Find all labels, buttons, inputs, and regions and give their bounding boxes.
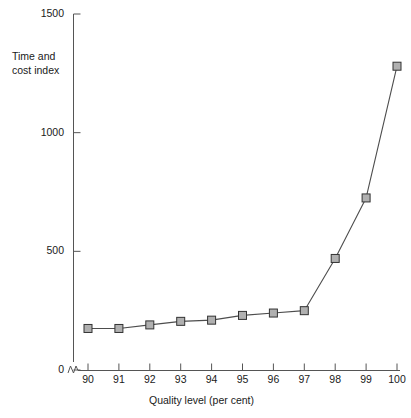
x-tick-label: 98 [320, 373, 350, 385]
x-tick-label: 100 [382, 373, 411, 385]
x-tick-label: 92 [135, 373, 165, 385]
data-markers [84, 62, 401, 332]
x-tick-label: 95 [228, 373, 258, 385]
data-point-marker [115, 324, 123, 332]
y-tick-marks [74, 14, 81, 370]
x-tick-label: 96 [258, 373, 288, 385]
x-tick-label: 90 [73, 373, 103, 385]
y-tick-label: 0 [18, 363, 64, 375]
data-point-marker [362, 194, 370, 202]
data-point-marker [146, 321, 154, 329]
y-tick-label: 500 [18, 244, 64, 256]
data-point-marker [84, 324, 92, 332]
data-point-marker [393, 62, 401, 70]
data-point-marker [239, 311, 247, 319]
data-point-marker [300, 307, 308, 315]
x-tick-label: 91 [104, 373, 134, 385]
data-point-marker [208, 316, 216, 324]
x-tick-label: 94 [197, 373, 227, 385]
x-tick-label: 97 [289, 373, 319, 385]
y-tick-label: 1000 [18, 126, 64, 138]
x-tick-marks [88, 364, 397, 371]
y-tick-label: 1500 [18, 7, 64, 19]
data-line [88, 66, 397, 328]
data-point-marker [331, 254, 339, 262]
data-point-marker [269, 309, 277, 317]
x-tick-label: 99 [351, 373, 381, 385]
x-tick-label: 93 [166, 373, 196, 385]
axes [68, 14, 400, 373]
data-point-marker [177, 317, 185, 325]
